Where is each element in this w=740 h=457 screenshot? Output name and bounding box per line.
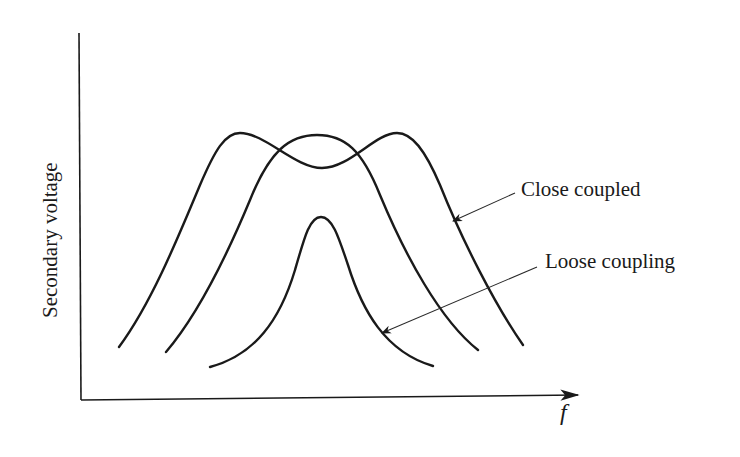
coupling-response-diagram: Secondary voltage f Close coupled Loose … (0, 0, 740, 457)
x-axis (81, 395, 578, 400)
axes (79, 33, 578, 400)
label-loose-coupling: Loose coupling (545, 249, 676, 273)
curve-close-coupled (119, 133, 523, 347)
label-close-coupled: Close coupled (521, 177, 641, 201)
annotation-loose-coupling: Loose coupling (382, 249, 676, 333)
y-axis-label: Secondary voltage (38, 162, 62, 318)
leader-arrow-close (453, 193, 515, 221)
y-axis (79, 33, 81, 400)
annotation-close-coupled: Close coupled (453, 177, 641, 221)
leader-arrow-loose (382, 267, 537, 333)
x-axis-label: f (560, 399, 570, 425)
